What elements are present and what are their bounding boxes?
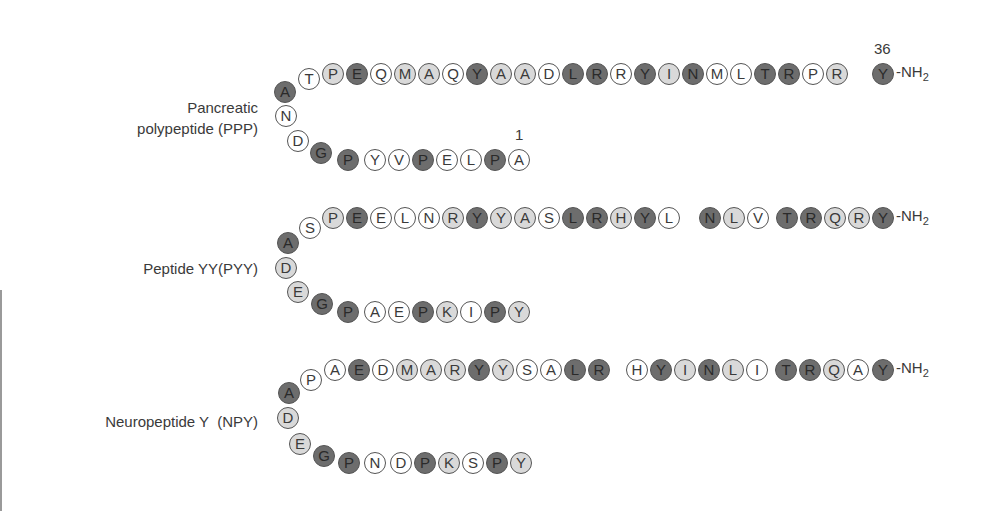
amide-subscript: 2 [923,367,929,379]
peptide-label-line: Pancreatic [137,97,258,118]
residue-circle: A [278,382,300,404]
residue-circle: Y [466,207,488,229]
residue-circle: A [277,232,299,254]
amide-subscript: 2 [923,215,929,227]
residue-circle: P [337,149,359,171]
peptide-label: Neuropeptide Y (NPY) [105,411,258,432]
residue-circle: E [346,63,368,85]
residue-circle: T [754,63,776,85]
residue-circle: A [364,301,386,323]
left-edge-rule [0,290,2,511]
residue-circle: E [346,207,368,229]
residue-circle: K [436,301,458,323]
residue-circle: D [287,130,309,152]
residue-circle: H [610,207,632,229]
residue-circle: L [394,207,416,229]
residue-circle: R [848,207,870,229]
residue-circle: Y [872,359,894,381]
residue-circle: D [390,452,412,474]
residue-circle: N [418,207,440,229]
residue-circle: Y [364,149,386,171]
residue-circle: T [776,207,798,229]
residue-circle: Y [872,207,894,229]
amide-text: -NH [896,207,923,224]
residue-circle: A [324,359,346,381]
residue-circle: Q [823,359,845,381]
residue-circle: L [460,149,482,171]
residue-circle: Y [468,359,490,381]
residue-circle: A [490,63,512,85]
residue-circle: P [322,63,344,85]
residue-circle: R [588,359,610,381]
residue-circle: A [847,359,869,381]
residue-circle: V [388,149,410,171]
residue-circle: E [388,301,410,323]
residue-circle: S [299,217,321,239]
residue-circle: Y [634,63,656,85]
residue-circle: P [484,149,506,171]
residue-circle: P [412,149,434,171]
residue-circle: P [322,207,344,229]
residue-circle: L [562,63,584,85]
residue-circle: I [658,63,680,85]
residue-circle: A [514,207,536,229]
residue-circle: P [414,452,436,474]
residue-circle: D [277,407,299,429]
residue-circle: R [778,63,800,85]
residue-circle: P [486,452,508,474]
residue-circle: Q [370,63,392,85]
residue-circle: Y [490,207,512,229]
residue-circle: I [460,301,482,323]
peptide-label: Peptide YY(PYY) [143,258,258,279]
amide-terminus-label: -NH2 [896,207,929,227]
residue-circle: T [775,359,797,381]
residue-circle: Y [466,63,488,85]
residue-circle: N [698,359,720,381]
peptide-label-line: Peptide YY(PYY) [143,258,258,279]
residue-circle: A [418,63,440,85]
residue-circle: Q [824,207,846,229]
residue-circle: N [275,105,297,127]
residue-circle: G [311,293,333,315]
residue-number-start: 1 [515,126,523,143]
residue-circle: R [586,63,608,85]
residue-circle: A [420,359,442,381]
residue-circle: Y [872,63,894,85]
peptide-label-line: Neuropeptide Y (NPY) [105,411,258,432]
residue-circle: E [289,433,311,455]
residue-circle: D [372,359,394,381]
residue-circle: R [800,207,822,229]
residue-circle: I [746,359,768,381]
residue-circle: H [626,359,648,381]
amide-subscript: 2 [923,71,929,83]
residue-circle: E [287,281,309,303]
residue-circle: K [438,452,460,474]
residue-circle: D [538,63,560,85]
residue-circle: A [540,359,562,381]
residue-circle: D [275,257,297,279]
residue-circle: E [348,359,370,381]
residue-circle: L [658,207,680,229]
residue-circle: A [514,63,536,85]
residue-circle: S [538,207,560,229]
residue-circle: P [484,301,506,323]
residue-circle: L [722,359,744,381]
residue-circle: P [412,301,434,323]
residue-circle: R [826,63,848,85]
amide-terminus-label: -NH2 [896,359,929,379]
residue-circle: S [516,359,538,381]
residue-circle: E [436,149,458,171]
residue-circle: P [338,452,360,474]
residue-circle: Q [442,63,464,85]
residue-circle: N [699,207,721,229]
residue-number-end: 36 [874,40,891,57]
residue-circle: M [394,63,416,85]
residue-circle: Y [634,207,656,229]
amide-terminus-label: -NH2 [896,63,929,83]
residue-circle: A [508,149,530,171]
residue-circle: Y [508,301,530,323]
residue-circle: L [564,359,586,381]
residue-circle: N [682,63,704,85]
residue-circle: T [298,68,320,90]
residue-circle: P [802,63,824,85]
